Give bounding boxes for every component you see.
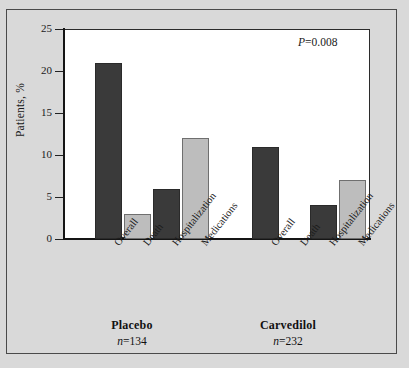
bars-layer bbox=[64, 29, 370, 239]
y-tick-label: 25 bbox=[18, 22, 52, 34]
y-tick-mark bbox=[55, 29, 63, 30]
y-tick-label: 20 bbox=[18, 64, 52, 76]
y-tick-label: 0 bbox=[18, 232, 52, 244]
y-tick-mark bbox=[55, 71, 63, 72]
y-tick-label: 15 bbox=[18, 106, 52, 118]
group-n: n=232 bbox=[218, 335, 358, 347]
figure-panel: Patients, % 2520151050 OverallDeathHospi… bbox=[0, 0, 409, 368]
bar-placebo-overall bbox=[95, 63, 122, 239]
p-value-annotation: P=0.008 bbox=[298, 36, 337, 48]
y-tick-mark bbox=[55, 155, 63, 156]
y-tick-label: 5 bbox=[18, 190, 52, 202]
group-name: Carvedilol bbox=[218, 318, 358, 333]
y-tick-mark bbox=[55, 239, 63, 240]
group-caption-carvedilol: Carvedilol n=232 bbox=[218, 318, 358, 347]
group-n: n=134 bbox=[62, 335, 202, 347]
group-name: Placebo bbox=[62, 318, 202, 333]
bar-carvedilol-overall bbox=[252, 147, 279, 239]
y-tick-mark bbox=[55, 197, 63, 198]
y-tick-label: 10 bbox=[18, 148, 52, 160]
group-caption-placebo: Placebo n=134 bbox=[62, 318, 202, 347]
y-tick-mark bbox=[55, 113, 63, 114]
